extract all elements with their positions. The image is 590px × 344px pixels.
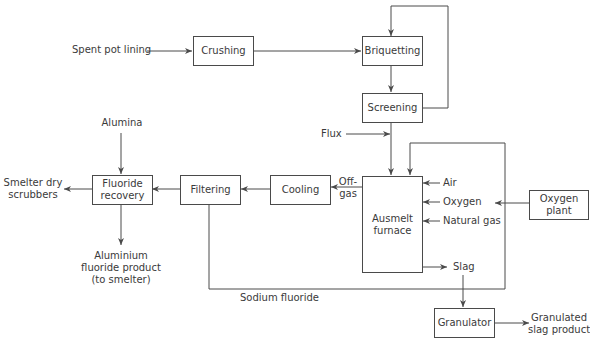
label-gsp-line-1: Granulated [528,312,590,324]
node-oxygen-plant: Oxygenplant [529,190,589,220]
label-smelter-dry-scrubbers: Smelter dry scrubbers [2,177,64,201]
node-oxygen-plant-label-1: Oxygen [540,193,579,205]
label-gsp-line-2: slag product [528,324,590,336]
label-alumina: Alumina [100,117,144,129]
node-granulator-label: Granulator [438,317,492,329]
label-sodium-fluoride: Sodium fluoride [240,292,319,304]
node-filtering: Filtering [180,175,241,205]
node-cooling-label: Cooling [282,184,319,196]
node-briquetting-label: Briquetting [365,45,421,57]
node-fluoride-label-1: Fluoride [101,178,145,190]
node-fluoride-recovery: Fluoriderecovery [92,175,153,205]
label-alf-line-3: (to smelter) [80,274,162,286]
node-cooling: Cooling [270,175,331,205]
label-spent-pot-lining: Spent pot lining [72,44,151,56]
label-aluminium-fluoride-product: Aluminium fluoride product (to smelter) [80,250,162,286]
node-crushing-label: Crushing [201,45,245,57]
label-flux: Flux [321,128,342,140]
label-offgas-line-1: Off- [336,176,360,188]
node-screening-label: Screening [368,102,418,114]
label-granulated-slag-product: Granulated slag product [528,312,590,336]
label-offgas-line-2: gas [336,188,360,200]
node-briquetting: Briquetting [362,36,423,66]
label-alf-line-2: fluoride product [80,262,162,274]
label-air: Air [443,177,457,189]
node-furnace-label-2: furnace [372,225,413,237]
node-furnace-label-1: Ausmelt [372,213,413,225]
node-ausmelt-furnace: Ausmeltfurnace [362,176,423,273]
node-crushing: Crushing [193,36,254,66]
label-off-gas: Off- gas [336,176,360,200]
label-alf-line-1: Aluminium [80,250,162,262]
label-oxygen: Oxygen [443,196,482,208]
node-fluoride-label-2: recovery [101,190,145,202]
node-oxygen-plant-label-2: plant [540,205,579,217]
label-natural-gas: Natural gas [443,215,501,227]
node-granulator: Granulator [434,308,495,338]
node-screening: Screening [362,93,423,123]
label-smelter-line-2: scrubbers [2,189,64,201]
node-filtering-label: Filtering [190,184,230,196]
label-smelter-line-1: Smelter dry [2,177,64,189]
label-slag: Slag [453,261,475,273]
